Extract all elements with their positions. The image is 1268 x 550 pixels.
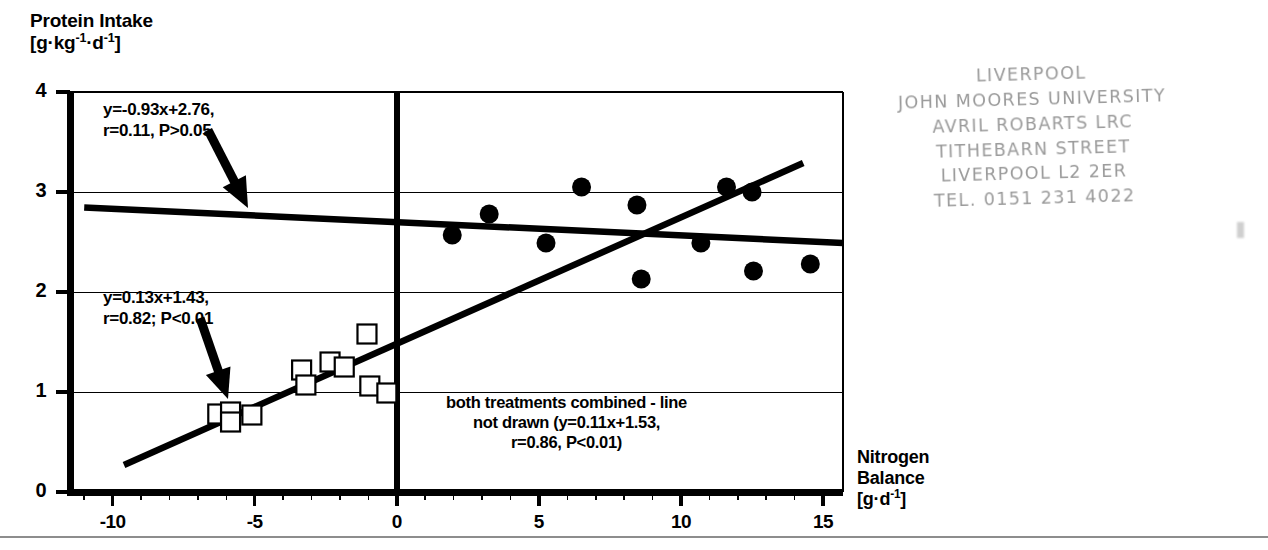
annotation-combined-treatments: both treatments combined - line not draw… xyxy=(446,392,687,452)
annotation-upper-regression: y=-0.93x+2.76, r=0.11, P>0.05 xyxy=(103,100,214,141)
annotation-lower-line2: r=0.82; P<0.01 xyxy=(103,309,213,330)
page-edge-rule xyxy=(0,536,1268,538)
figure-container: Protein Intake [g·kg-1·d-1] Nitrogen Bal… xyxy=(0,0,1268,550)
open-square-data-points xyxy=(208,325,396,432)
library-stamp: LIVERPOOL JOHN MOORES UNIVERSITY AVRIL R… xyxy=(866,57,1200,215)
annotation-lower-regression: y=0.13x+1.43, r=0.82; P<0.01 xyxy=(103,288,213,329)
annotation-combined-line3: r=0.86, P<0.01) xyxy=(446,432,687,452)
annotation-upper-line1: y=-0.93x+2.76, xyxy=(103,100,214,121)
annotation-arrows xyxy=(200,130,248,399)
annotation-upper-line2: r=0.11, P>0.05 xyxy=(103,121,214,142)
annotation-combined-line2: not drawn (y=0.11x+1.53, xyxy=(446,412,687,432)
scan-artifact-speck xyxy=(1237,222,1244,238)
annotation-combined-line1: both treatments combined - line xyxy=(446,392,687,412)
annotation-lower-line1: y=0.13x+1.43, xyxy=(103,288,213,309)
